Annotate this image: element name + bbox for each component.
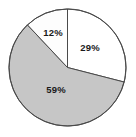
pie-label-12: 12% — [43, 27, 63, 38]
pie-slices — [9, 9, 126, 126]
pie-chart-svg: 29% 59% 12% — [0, 0, 136, 137]
pie-label-29: 29% — [80, 42, 100, 53]
pie-label-59: 59% — [46, 84, 66, 95]
pie-chart-figure: 29% 59% 12% — [0, 0, 136, 137]
figure-caption — [0, 132, 136, 137]
